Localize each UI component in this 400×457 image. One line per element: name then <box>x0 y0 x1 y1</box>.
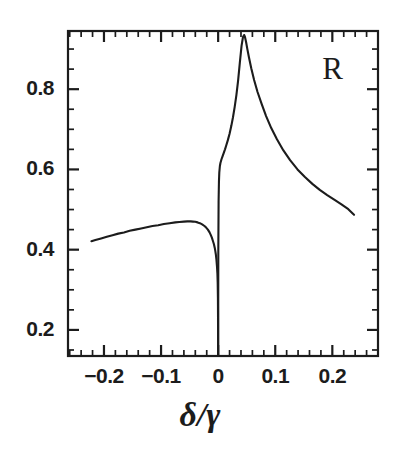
x-tick-label: 0.2 <box>292 364 372 388</box>
y-tick-label: 0.6 <box>0 156 54 180</box>
data-series <box>91 35 354 356</box>
curve-label-R: R <box>322 51 343 87</box>
y-tick-label: 0.2 <box>0 317 54 341</box>
series-line-0 <box>91 221 218 356</box>
chart-figure: 0.8 0.6 0.4 0.2 −0.2 −0.1 0 0.1 0.2 δ/γ … <box>0 0 400 457</box>
y-tick-label: 0.8 <box>0 76 54 100</box>
x-axis-title: δ/γ <box>0 396 400 434</box>
y-tick-label: 0.4 <box>0 237 54 261</box>
